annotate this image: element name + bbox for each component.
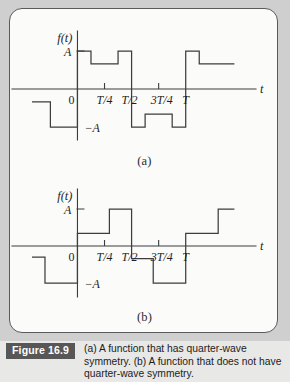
figure-panel: f(t)tA−A0T/4T/23T/4T (a) f(t)tA−A0T/4T/2… [9,8,278,333]
figure-container: f(t)tA−A0T/4T/23T/4T (a) f(t)tA−A0T/4T/2… [0,0,290,382]
svg-text:A: A [63,203,72,217]
svg-text:T: T [182,250,190,264]
chart-a-svg: f(t)tA−A0T/4T/23T/4T [10,9,278,157]
subfigure-label-a: (a) [10,154,278,169]
figure-caption: Figure 16.9 (a) A function that has quar… [0,341,290,382]
chart-quarter-wave-symmetric: f(t)tA−A0T/4T/23T/4T (a) [10,9,278,181]
svg-text:0: 0 [68,93,74,107]
svg-text:A: A [63,45,72,59]
chart-not-quarter-wave-symmetric: f(t)tA−A0T/4T/23T/4T (b) [10,181,278,333]
chart-b-svg: f(t)tA−A0T/4T/23T/4T [10,181,278,313]
svg-text:3T/4: 3T/4 [150,93,173,107]
svg-text:T/2: T/2 [122,93,138,107]
svg-text:T/2: T/2 [122,250,138,264]
svg-text:3T/4: 3T/4 [150,250,173,264]
svg-text:T: T [182,93,190,107]
svg-text:0: 0 [68,250,74,264]
svg-text:T/4: T/4 [97,93,113,107]
svg-text:t: t [260,239,264,253]
svg-text:T/4: T/4 [97,250,113,264]
svg-text:f(t): f(t) [57,31,72,45]
svg-text:f(t): f(t) [57,189,72,203]
svg-text:−A: −A [84,121,100,135]
figure-caption-text: (a) A function that has quarter-wave sym… [84,343,286,381]
subfigure-label-b: (b) [10,310,278,325]
svg-text:t: t [260,82,264,96]
svg-text:−A: −A [84,277,100,291]
figure-number-badge: Figure 16.9 [6,343,75,359]
